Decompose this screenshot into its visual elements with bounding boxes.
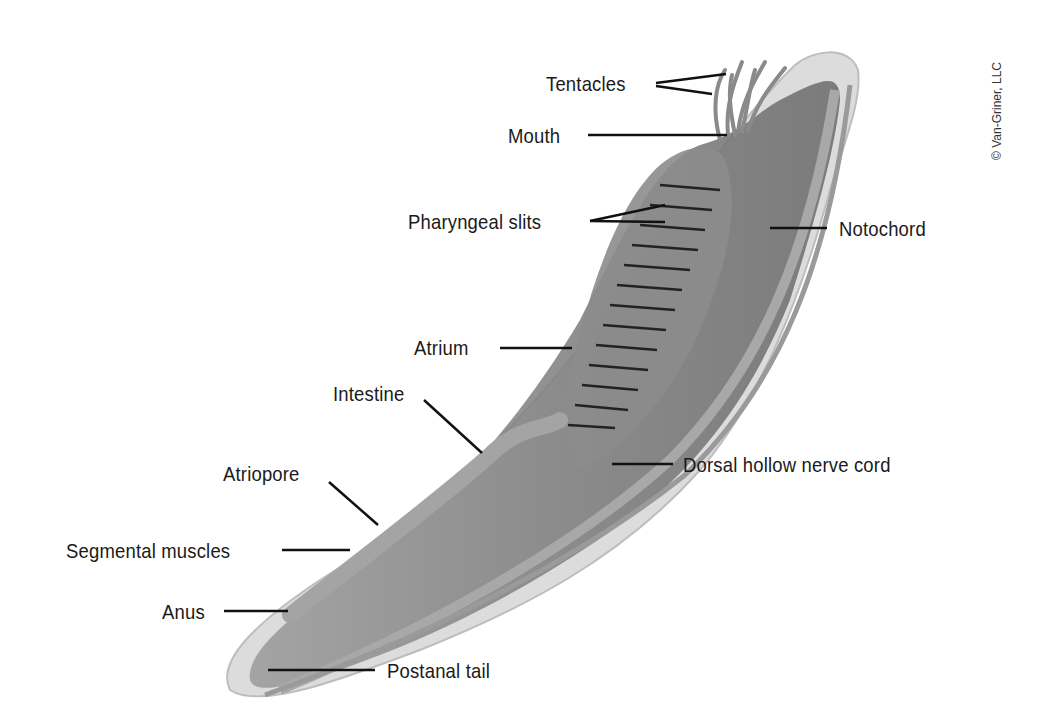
label-mouth: Mouth — [508, 124, 560, 148]
label-dorsal-nerve-cord: Dorsal hollow nerve cord — [683, 453, 891, 477]
chordate-diagram: Tentacles Mouth Pharyngeal slits Notocho… — [0, 0, 1050, 717]
label-intestine: Intestine — [333, 382, 404, 406]
label-segmental-muscles: Segmental muscles — [66, 539, 230, 563]
label-pharyngeal-slits: Pharyngeal slits — [408, 210, 541, 234]
organism-illustration — [0, 0, 1050, 717]
label-postanal-tail: Postanal tail — [387, 659, 490, 683]
label-notochord: Notochord — [839, 217, 926, 241]
label-tentacles: Tentacles — [546, 72, 626, 96]
copyright-credit: © Van-Griner, LLC — [990, 62, 1004, 160]
label-atrium: Atrium — [414, 336, 468, 360]
label-atriopore: Atriopore — [223, 462, 300, 486]
label-anus: Anus — [162, 600, 205, 624]
